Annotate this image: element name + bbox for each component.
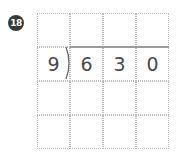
dividend-digit: 6: [70, 47, 103, 81]
grid-cell[interactable]: [37, 13, 70, 47]
grid-cell[interactable]: [103, 13, 136, 47]
problem-number-badge: 18: [8, 15, 24, 31]
grid-cell[interactable]: [70, 13, 103, 47]
grid-cell[interactable]: [136, 81, 169, 115]
grid-cell[interactable]: [37, 115, 70, 149]
grid-cell[interactable]: [70, 115, 103, 149]
grid-cell[interactable]: [70, 81, 103, 115]
grid-cell[interactable]: [37, 81, 70, 115]
dividend-digit: 0: [136, 47, 169, 81]
grid-cell[interactable]: [103, 81, 136, 115]
grid-cell[interactable]: [136, 13, 169, 47]
division-bar: [70, 46, 169, 48]
dividend-digit: 3: [103, 47, 136, 81]
grid-cell[interactable]: [103, 115, 136, 149]
grid-cell[interactable]: [136, 115, 169, 149]
division-bracket-icon: [63, 46, 73, 80]
division-grid: 9 6 3 0: [37, 13, 169, 149]
